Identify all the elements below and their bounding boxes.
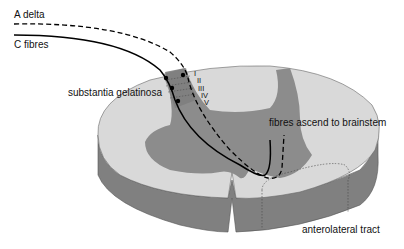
fibres-ascend-label: fibres ascend to brainstem (269, 118, 386, 128)
c-fibres-label: C fibres (14, 40, 48, 50)
anterolateral-tract-label: anterolateral tract (302, 225, 380, 235)
a-delta-label: A delta (14, 10, 45, 20)
substantia-gelatinosa-label: substantia gelatinosa (68, 88, 162, 98)
lamina-label-1: I (194, 70, 196, 78)
lamina-label-5: V (204, 99, 209, 107)
